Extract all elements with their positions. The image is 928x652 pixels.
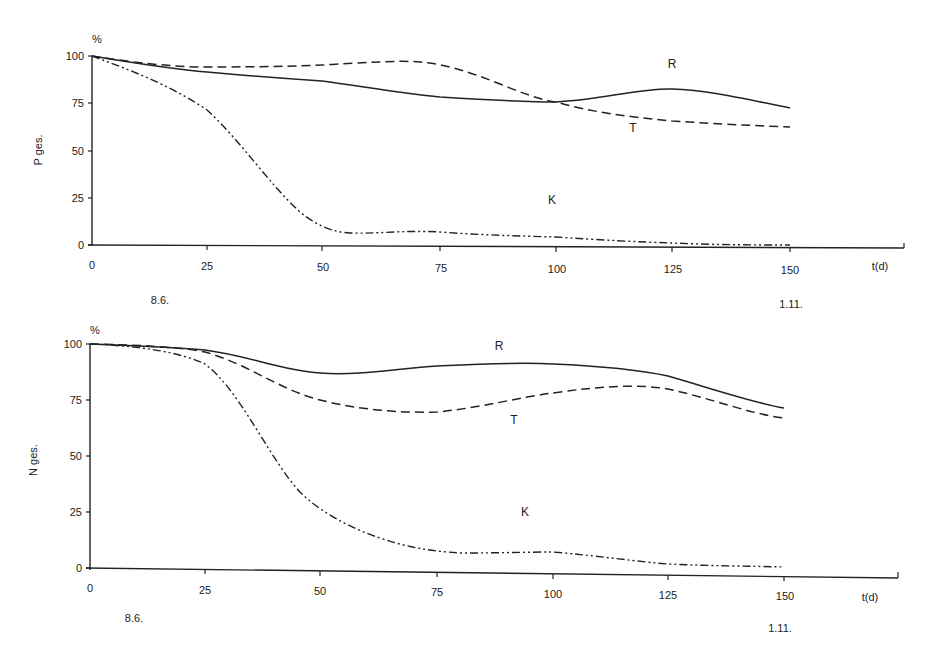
series-label-R: R xyxy=(495,339,504,353)
y-tick-label: 100 xyxy=(66,50,84,62)
y-tick-label: 100 xyxy=(64,338,82,350)
y-tick-label: 0 xyxy=(78,239,84,251)
x-tick-label: 0 xyxy=(87,582,93,594)
y-unit-label: % xyxy=(92,33,102,45)
x-tick-label: 0 xyxy=(89,259,95,271)
series-label-K: K xyxy=(521,505,529,519)
x-tick-label: 25 xyxy=(201,260,213,272)
x-tick-label: 150 xyxy=(776,590,794,602)
x-tick-labels: 0 25 50 75 100 125 150 xyxy=(89,259,799,276)
x-tick-label: 50 xyxy=(317,261,329,273)
series-K-line xyxy=(90,344,784,567)
y-unit-label: % xyxy=(90,324,100,336)
figure: 100 75 50 25 0 % P ges. 0 25 50 75 100 1… xyxy=(0,0,928,652)
x-axis xyxy=(86,568,898,578)
x-tick-label: 100 xyxy=(544,588,562,600)
y-tick-label: 50 xyxy=(72,145,84,157)
y-tick-label: 50 xyxy=(70,450,82,462)
x-tick-label: 50 xyxy=(314,585,326,597)
series-R-line xyxy=(92,56,790,108)
x-tick-label: 150 xyxy=(781,264,799,276)
start-date-label: 8.6. xyxy=(125,612,143,624)
series-R-line xyxy=(90,344,784,408)
x-axis-label: t(d) xyxy=(872,260,889,272)
y-axis-label: P ges. xyxy=(32,135,44,166)
y-tick-label: 0 xyxy=(76,562,82,574)
y-tick-label: 75 xyxy=(70,394,82,406)
x-tick-label: 100 xyxy=(548,263,566,275)
start-date-label: 8.6. xyxy=(151,294,169,306)
chart-p-ges: 100 75 50 25 0 % P ges. 0 25 50 75 100 1… xyxy=(32,33,904,310)
series-label-K: K xyxy=(548,193,556,207)
series-T-line xyxy=(92,56,790,127)
y-tick-labels: 100 75 50 25 0 xyxy=(64,338,82,574)
end-date-label: 1.11. xyxy=(768,622,792,634)
y-tick-label: 25 xyxy=(72,192,84,204)
x-axis-label: t(d) xyxy=(862,591,879,603)
y-axis-label: N ges. xyxy=(27,444,39,476)
series-label-T: T xyxy=(510,413,518,427)
y-tick-label: 25 xyxy=(70,506,82,518)
x-tick-label: 75 xyxy=(431,586,443,598)
end-date-label: 1.11. xyxy=(779,298,803,310)
x-tick-label: 25 xyxy=(199,584,211,596)
x-tick-label: 75 xyxy=(435,262,447,274)
chart-n-ges: 100 75 50 25 0 % N ges. 0 25 50 75 100 1… xyxy=(27,324,898,634)
series-label-T: T xyxy=(629,121,637,135)
x-tick-label: 125 xyxy=(659,589,677,601)
y-tick-label: 75 xyxy=(72,97,84,109)
y-tick-labels: 100 75 50 25 0 xyxy=(66,50,84,251)
x-tick-label: 125 xyxy=(664,263,682,275)
x-tick-labels: 0 25 50 75 100 125 150 xyxy=(87,582,794,602)
series-K-line xyxy=(92,56,790,245)
series-T-line xyxy=(90,344,784,418)
series-label-R: R xyxy=(668,57,677,71)
